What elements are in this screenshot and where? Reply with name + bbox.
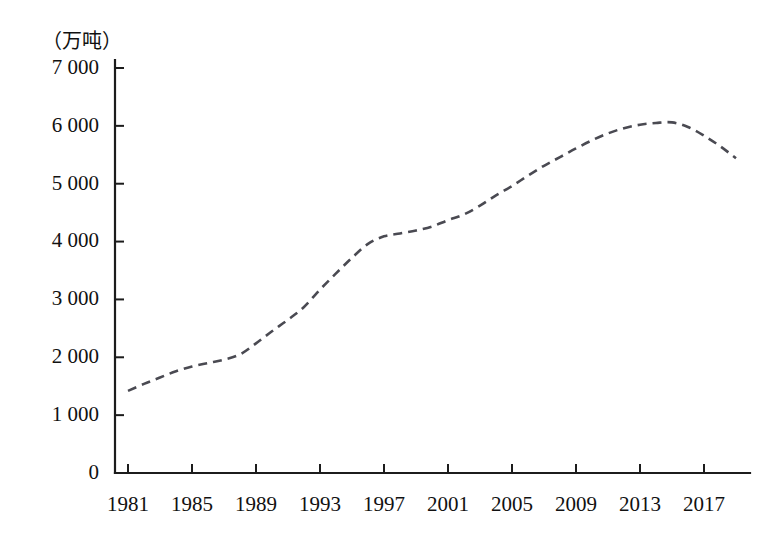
x-axis-tick-marks xyxy=(128,464,704,473)
x-axis-tick-label: 1997 xyxy=(363,492,405,516)
x-axis-tick-label: 2017 xyxy=(683,492,725,516)
y-axis-tick-label: 5 000 xyxy=(52,171,99,195)
data-series-line xyxy=(128,122,736,391)
y-axis-unit-label: （万吨） xyxy=(42,30,122,52)
y-axis-tick-label: 4 000 xyxy=(52,228,99,252)
x-axis-tick-label: 1993 xyxy=(299,492,341,516)
x-axis-tick-label: 2001 xyxy=(427,492,469,516)
y-axis-tick-label: 3 000 xyxy=(52,286,99,310)
chart-container: （万吨） 01 0002 0003 0004 0005 0006 0007 00… xyxy=(0,0,780,542)
y-axis-tick-labels: 01 0002 0003 0004 0005 0006 0007 000 xyxy=(52,55,99,484)
line-chart: （万吨） 01 0002 0003 0004 0005 0006 0007 00… xyxy=(0,0,780,542)
x-axis-tick-label: 1981 xyxy=(107,492,149,516)
y-axis-tick-marks xyxy=(115,68,124,473)
x-axis-tick-label: 2005 xyxy=(491,492,533,516)
x-axis-tick-label: 1989 xyxy=(235,492,277,516)
x-axis-tick-label: 2009 xyxy=(555,492,597,516)
x-axis-tick-label: 2013 xyxy=(619,492,661,516)
x-axis-tick-labels: 1981198519891993199720012005200920132017 xyxy=(107,492,725,516)
y-axis-tick-label: 7 000 xyxy=(52,55,99,79)
y-axis-tick-label: 0 xyxy=(89,460,100,484)
unit-label-group: （万吨） xyxy=(42,30,122,52)
y-axis-tick-label: 1 000 xyxy=(52,402,99,426)
y-axis-tick-label: 2 000 xyxy=(52,344,99,368)
y-axis-tick-label: 6 000 xyxy=(52,113,99,137)
x-axis-tick-label: 1985 xyxy=(171,492,213,516)
